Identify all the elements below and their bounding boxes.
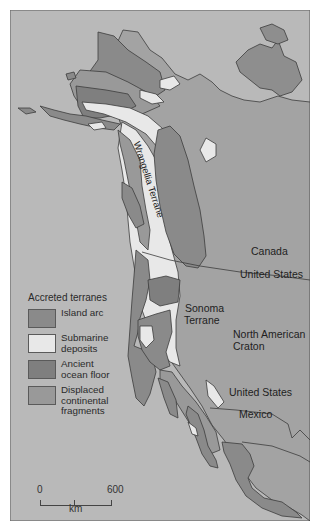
map-graphic bbox=[10, 10, 310, 521]
scale-end-label: 600 bbox=[107, 484, 124, 495]
sonoma-terrane-label-line1: Sonoma bbox=[185, 303, 224, 314]
island-arc-swatch bbox=[28, 309, 56, 328]
displaced-fragments-label: Displaced continental fragments bbox=[61, 385, 108, 417]
scale-unit-label: km bbox=[69, 503, 82, 514]
island-arc-label: Island arc bbox=[61, 308, 103, 319]
ancient-ocean-floor-swatch bbox=[28, 360, 56, 379]
scale-start-label: 0 bbox=[37, 484, 43, 495]
mexico-label: Mexico bbox=[239, 409, 272, 420]
legend-item-ancient-ocean-floor: Ancient ocean floor bbox=[28, 359, 109, 380]
legend-item-island-arc: Island arc bbox=[28, 308, 109, 328]
displaced-fragments-swatch bbox=[28, 386, 56, 405]
canada-label: Canada bbox=[251, 246, 288, 257]
sonoma-ancient-ocean-floor bbox=[148, 276, 180, 306]
legend-item-submarine-deposits: Submarine deposits bbox=[28, 333, 109, 354]
craton-label-line2: Craton bbox=[233, 341, 265, 352]
legend-title: Accreted terranes bbox=[28, 292, 109, 303]
scale-bar: 0 600 km bbox=[29, 484, 119, 514]
submarine-deposits-label: Submarine deposits bbox=[61, 333, 108, 354]
sonoma-terrane-label-line2: Terrane bbox=[184, 315, 220, 326]
legend: Accreted terranes Island arc Submarine d… bbox=[28, 292, 109, 422]
united-states-label-south: United States bbox=[229, 387, 292, 398]
united-states-label-north: United States bbox=[240, 269, 303, 280]
submarine-deposits-swatch bbox=[28, 334, 56, 353]
terrane-map: Wrangellia Terrane Canada United States … bbox=[10, 10, 310, 521]
legend-item-displaced-fragments: Displaced continental fragments bbox=[28, 385, 109, 417]
ancient-ocean-floor-label: Ancient ocean floor bbox=[61, 359, 109, 380]
craton-label-line1: North American bbox=[233, 329, 305, 340]
